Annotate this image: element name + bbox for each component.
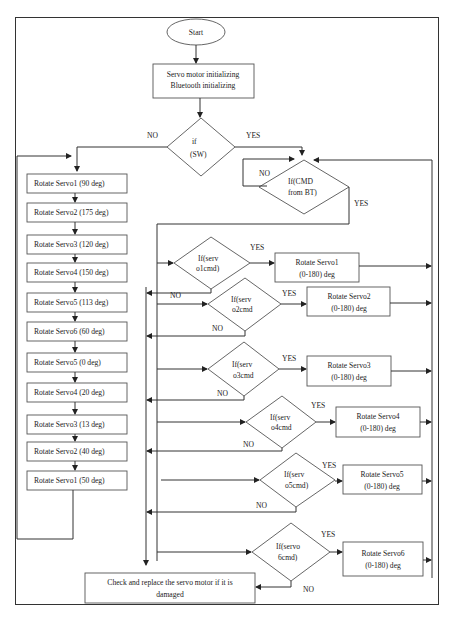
sw-line-2: (SW) (190, 150, 207, 159)
final-line-1: Check and replace the servo motor if it … (107, 578, 232, 587)
flowchart: Start Servo motor initializing Bluetooth… (0, 0, 451, 617)
sw-decision (167, 118, 235, 176)
servo-check-5: If(serv o5cmd) YES NO Rotate Servo5 (0-1… (147, 453, 431, 512)
sequence-text: Rotate Servo3 (13 deg) (34, 420, 105, 429)
cmd-decision (259, 160, 349, 214)
servo6-action (343, 542, 423, 576)
servo-check-3: If(serv o3cmd YES NO Rotate Servo3 (0-18… (147, 342, 431, 400)
action-text: Rotate Servo4 (356, 412, 399, 421)
cond-text: If(serv (231, 295, 251, 304)
servo6-decision (252, 523, 330, 581)
sequence-text: Rotate Servo5 (113 deg) (34, 298, 109, 307)
no-label: NO (170, 291, 181, 300)
yes-label: YES (282, 289, 296, 298)
cond-text: If(serv (270, 413, 290, 422)
sequence-text: Rotate Servo6 (60 deg) (34, 327, 105, 336)
cond-text: If(serv (284, 470, 304, 479)
servo4-decision (246, 396, 316, 448)
yes-label: YES (321, 530, 335, 539)
cond-text: o2cmd (232, 305, 253, 314)
action-text: (0-180) deg (365, 561, 401, 570)
cond-text: o1cmd) (196, 264, 220, 273)
init-line-1: Servo motor initializing (167, 70, 240, 79)
sequence-text: Rotate Servo3 (120 deg) (34, 240, 109, 249)
action-text: (0-180) deg (360, 424, 396, 433)
yes-label: YES (282, 354, 296, 363)
cond-text: If(serv (198, 254, 218, 263)
cond-text: If(servo (276, 542, 300, 551)
start-label: Start (189, 28, 204, 37)
sw-yes-label: YES (246, 131, 260, 140)
action-text: Rotate Servo5 (360, 470, 403, 479)
sequence-text: Rotate Servo2 (175 deg) (34, 208, 109, 217)
cond-text: o3cmd (233, 371, 254, 380)
action-text: (0-180) deg (331, 304, 367, 313)
no-label: NO (256, 501, 267, 510)
cond-text: If(serv (232, 360, 252, 369)
yes-label: YES (250, 243, 264, 252)
action-text: Rotate Servo6 (361, 549, 404, 558)
no-label: NO (217, 389, 228, 398)
yes-label: YES (322, 461, 336, 470)
init-line-2: Bluetooth initializing (171, 81, 236, 90)
sequence-text: Rotate Servo1 (50 deg) (34, 476, 105, 485)
cond-text: o4cmd (271, 423, 292, 432)
action-text: Rotate Servo3 (327, 361, 370, 370)
action-text: Rotate Servo1 (295, 258, 338, 267)
servo1-decision (174, 237, 250, 289)
cmd-no-label: NO (259, 169, 270, 178)
servo3-decision (208, 342, 279, 396)
action-text: (0-180) deg (331, 373, 367, 382)
action-text: (0-180) deg (364, 482, 400, 491)
servo-check-4: If(serv o4cmd YES NO Rotate Servo4 (0-18… (147, 396, 431, 451)
sequence-text: Rotate Servo4 (20 deg) (34, 388, 105, 397)
cmd-line-2: from BT) (288, 188, 317, 197)
sw-line-1: if (192, 137, 197, 146)
sw-no-label: NO (147, 131, 158, 140)
servo-check-2: If(serv o2cmd YES NO Rotate Servo2 (0-18… (147, 278, 431, 336)
no-label: NO (243, 440, 254, 449)
cond-text: 6cmd) (278, 553, 298, 562)
cmd-yes-label: YES (354, 199, 368, 208)
sequence-text: Rotate Servo4 (150 deg) (34, 268, 109, 277)
action-text: Rotate Servo2 (327, 292, 370, 301)
action-text: (0-180) deg (299, 270, 335, 279)
cmd-line-1: If(CMD (288, 177, 313, 186)
sequence-list: Rotate Servo1 (90 deg) Rotate Servo2 (17… (27, 174, 127, 539)
final-line-2: damaged (156, 590, 184, 599)
sequence-text: Rotate Servo5 (0 deg) (34, 358, 101, 367)
no-label: NO (212, 324, 223, 333)
sequence-text: Rotate Servo1 (90 deg) (34, 179, 105, 188)
no-label: NO (303, 585, 314, 594)
sequence-text: Rotate Servo2 (40 deg) (34, 447, 105, 456)
yes-label: YES (311, 401, 325, 410)
cond-text: o5cmd) (285, 481, 309, 490)
